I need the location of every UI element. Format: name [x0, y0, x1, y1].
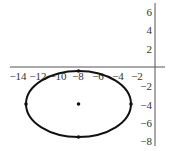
y-tick-label: −2	[140, 80, 152, 92]
y-tick-label: −8	[140, 135, 152, 147]
x-tick-label: −14	[9, 70, 27, 82]
center-point	[77, 102, 81, 106]
y-tick-label: −4	[140, 99, 152, 111]
ellipse-chart: −14 −12 −10 −8 −6 −4 −2 6 4 2 −2 −4 −6 −…	[0, 0, 170, 151]
left-vertex-point	[24, 102, 28, 106]
y-tick-label: 2	[147, 43, 153, 55]
y-tick-label: 4	[147, 24, 153, 36]
y-tick-label: −6	[140, 117, 152, 129]
top-covertex-point	[77, 69, 81, 73]
y-tick-label: 6	[147, 6, 153, 18]
bottom-covertex-point	[77, 135, 81, 139]
right-vertex-point	[129, 102, 133, 106]
